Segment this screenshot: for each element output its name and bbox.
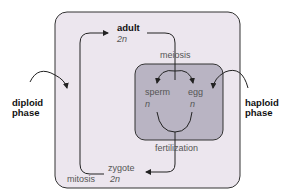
adult-ploidy: 2n [117, 34, 127, 44]
sperm-label: sperm [145, 87, 170, 97]
sperm-ploidy: n [145, 99, 150, 109]
diploid-label: diploid phase [12, 98, 43, 118]
mitosis-label: mitosis [67, 174, 95, 184]
egg-label: egg [188, 87, 203, 97]
fertilization-label: fertilization [155, 143, 198, 153]
meiosis-label: meiosis [160, 50, 191, 60]
adult-label: adult [117, 23, 140, 33]
zygote-ploidy: 2n [110, 174, 120, 184]
haploid-label: haploid phase [245, 98, 279, 118]
zygote-label: zygote [108, 163, 135, 173]
egg-ploidy: n [190, 99, 195, 109]
